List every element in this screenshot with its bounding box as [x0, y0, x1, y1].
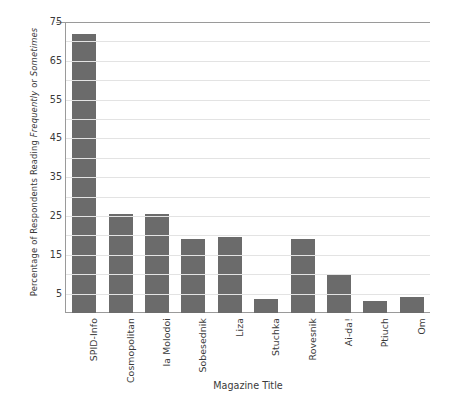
y-tick-label: 25: [22, 211, 62, 221]
bar[interactable]: [400, 297, 424, 313]
y-tick-label: 15: [22, 250, 62, 260]
x-tick-label: SPID-Info: [88, 318, 99, 361]
bar[interactable]: [363, 301, 387, 313]
y-tick-label: 35: [22, 172, 62, 182]
y-tick-label: 5: [22, 289, 62, 299]
x-tick-label: Liza: [234, 318, 245, 337]
y-tick-label: 55: [22, 95, 62, 105]
bar[interactable]: [254, 299, 278, 313]
bar[interactable]: [291, 239, 315, 313]
bar[interactable]: [145, 214, 169, 313]
x-axis-tick-labels: SPID-InfoCosmopolitanIa MolodoiSobesedni…: [66, 316, 430, 378]
bar[interactable]: [72, 34, 96, 313]
x-tick-label: Ia Molodoi: [161, 318, 172, 367]
x-tick-label: Sobesednik: [197, 318, 208, 373]
bar[interactable]: [181, 239, 205, 313]
y-tick-label: 75: [22, 17, 62, 27]
x-tick-label: Ptiuch: [379, 318, 390, 347]
x-axis-title: Magazine Title: [66, 380, 430, 391]
x-tick-label: Cosmopolitan: [125, 318, 136, 383]
x-tick-label: Stuchka: [270, 318, 281, 356]
y-tick-label: 65: [22, 56, 62, 66]
bar[interactable]: [109, 214, 133, 313]
plot-area: [66, 22, 430, 313]
x-tick-label: Ai-da!: [343, 318, 354, 346]
bar[interactable]: [218, 237, 242, 313]
y-tick-label: 45: [22, 134, 62, 144]
bar[interactable]: [327, 274, 351, 313]
x-tick-label: Om: [416, 318, 427, 335]
bar-chart: Percentage of Respondents Reading Freque…: [0, 0, 451, 412]
x-tick-label: Rovesnik: [307, 318, 318, 360]
y-axis-tick-labels: 515253545556575: [16, 0, 62, 412]
bars-layer: [66, 22, 430, 313]
